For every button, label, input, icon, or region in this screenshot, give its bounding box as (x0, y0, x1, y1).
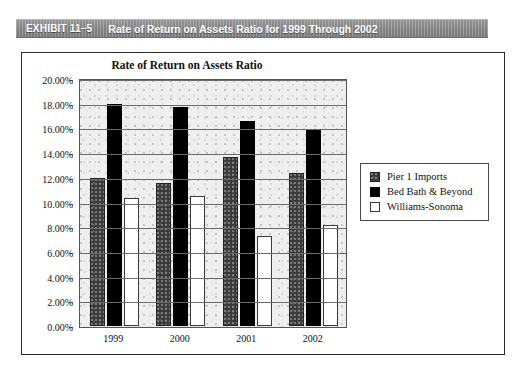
legend-item: Pier 1 Imports (370, 171, 480, 182)
gridline (80, 154, 346, 155)
bar (124, 198, 139, 326)
exhibit-number-tag: EXHIBIT 11–5 (16, 23, 94, 34)
x-axis: 1999200020012002 (79, 330, 347, 348)
chart-frame: Rate of Return on Assets Ratio 0.00%2.00… (21, 52, 505, 355)
legend-item: Bed Bath & Beyond (370, 186, 480, 197)
exhibit-title: Rate of Return on Assets Ratio for 1999 … (94, 23, 377, 35)
y-axis-tick-mark (69, 80, 73, 81)
gridline (80, 278, 346, 279)
legend-item: Williams-Sonoma (370, 201, 480, 212)
bar (190, 196, 205, 326)
plot-area (79, 79, 347, 328)
gridline (80, 228, 346, 229)
gridline (80, 105, 346, 106)
gridline (80, 80, 346, 81)
gridline (80, 253, 346, 254)
gridline (80, 302, 346, 303)
y-axis: 0.00%2.00%4.00%6.00%8.00%10.00%12.00%14.… (22, 79, 73, 328)
y-axis-tick-mark (69, 105, 73, 106)
y-axis-tick-mark (69, 179, 73, 180)
y-axis-tick-mark (69, 129, 73, 130)
gridline (80, 204, 346, 205)
gridline (80, 129, 346, 130)
bar (257, 236, 272, 326)
y-axis-tick-mark (69, 278, 73, 279)
legend-label: Williams-Sonoma (387, 201, 463, 212)
gridline (80, 179, 346, 180)
x-axis-tick-label: 1999 (103, 333, 123, 344)
bar (240, 121, 255, 326)
chart-legend: Pier 1 ImportsBed Bath & BeyondWilliams-… (360, 163, 489, 221)
legend-label: Pier 1 Imports (387, 171, 447, 182)
y-axis-tick-mark (69, 327, 73, 328)
bar (323, 225, 338, 326)
legend-swatch-icon (370, 187, 380, 197)
chart-title: Rate of Return on Assets Ratio (22, 59, 352, 71)
y-axis-tick-mark (69, 204, 73, 205)
bar (173, 107, 188, 326)
legend-swatch-icon (370, 172, 380, 182)
legend-label: Bed Bath & Beyond (387, 186, 472, 197)
x-axis-tick-label: 2001 (236, 333, 256, 344)
exhibit-header-banner: EXHIBIT 11–5 Rate of Return on Assets Ra… (16, 19, 488, 38)
bar (107, 104, 122, 326)
plot-wrapper: 0.00%2.00%4.00%6.00%8.00%10.00%12.00%14.… (79, 79, 347, 328)
bar (223, 157, 238, 326)
x-axis-tick-label: 2000 (170, 333, 190, 344)
y-axis-tick-mark (69, 302, 73, 303)
legend-swatch-icon (370, 202, 380, 212)
y-axis-tick-mark (69, 154, 73, 155)
x-axis-tick-label: 2002 (303, 333, 323, 344)
y-axis-tick-mark (69, 253, 73, 254)
y-axis-tick-mark (69, 228, 73, 229)
